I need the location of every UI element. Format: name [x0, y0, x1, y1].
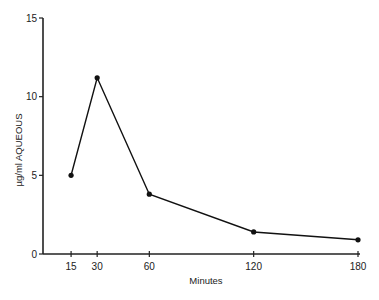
x-tick-label: 30 [92, 261, 104, 272]
x-tick-label: 60 [144, 261, 156, 272]
series-line [71, 78, 358, 240]
data-point [251, 229, 256, 234]
x-axis-title: Minutes [189, 275, 223, 286]
y-tick-label: 0 [31, 249, 37, 260]
data-point [68, 173, 73, 178]
y-tick-label: 5 [31, 170, 37, 181]
series-group [68, 75, 360, 242]
y-axis-title: µg/ml AQUEOUS [13, 113, 24, 186]
y-tick-label: 10 [26, 91, 38, 102]
x-tick-label: 180 [350, 261, 367, 272]
y-tick-label: 15 [26, 13, 38, 24]
axes: 051015153060120180 [26, 13, 367, 273]
x-tick-label: 15 [66, 261, 78, 272]
x-tick-label: 120 [245, 261, 262, 272]
line-chart: 051015153060120180 Minutes µg/ml AQUEOUS [0, 0, 379, 300]
data-point [95, 75, 100, 80]
data-point [355, 237, 360, 242]
data-point [147, 192, 152, 197]
